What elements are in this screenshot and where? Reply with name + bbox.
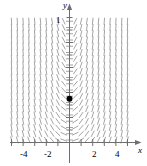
slope-segment bbox=[91, 131, 94, 137]
slope-segment bbox=[28, 87, 29, 94]
slope-segment bbox=[57, 37, 59, 44]
slope-segment bbox=[51, 93, 53, 100]
slope-segment bbox=[22, 124, 24, 131]
slope-segment bbox=[11, 93, 12, 100]
slope-segment bbox=[23, 49, 24, 56]
slope-segment bbox=[110, 55, 111, 62]
slope-segment bbox=[116, 68, 117, 75]
slope-segment bbox=[23, 112, 24, 119]
slope-segment bbox=[56, 118, 60, 124]
slope-segment bbox=[74, 18, 77, 24]
slope-segment bbox=[40, 74, 41, 81]
slope-segment bbox=[110, 30, 111, 37]
slope-segment bbox=[110, 99, 111, 106]
slope-segment bbox=[34, 80, 35, 87]
slope-segment bbox=[98, 80, 99, 87]
slope-segment bbox=[110, 62, 111, 69]
slope-segment bbox=[72, 126, 78, 129]
slope-segment bbox=[45, 99, 47, 106]
slope-segment bbox=[40, 55, 41, 62]
slope-segment bbox=[45, 112, 47, 119]
slope-segment bbox=[127, 112, 128, 119]
slope-segment bbox=[110, 87, 111, 94]
slope-segment bbox=[97, 124, 99, 131]
slope-segment bbox=[103, 124, 105, 131]
slope-segment bbox=[80, 24, 82, 31]
slope-segment bbox=[104, 49, 105, 56]
slope-segment bbox=[110, 80, 111, 87]
slope-segment bbox=[104, 99, 105, 106]
slope-segment bbox=[34, 68, 35, 75]
slope-segment bbox=[45, 93, 47, 100]
slope-segment bbox=[61, 119, 67, 123]
slope-segment bbox=[28, 130, 30, 137]
slope-segment bbox=[17, 74, 18, 81]
slope-segment bbox=[98, 112, 100, 119]
slope-segment bbox=[34, 37, 35, 44]
slope-segment bbox=[34, 124, 36, 131]
slope-segment bbox=[116, 55, 117, 62]
slope-segment bbox=[127, 80, 128, 87]
slope-segment bbox=[40, 99, 41, 106]
slope-segment bbox=[121, 62, 122, 69]
slope-segment bbox=[116, 49, 117, 56]
slope-segment bbox=[86, 99, 88, 106]
slope-segment bbox=[92, 18, 93, 25]
slope-segment bbox=[98, 55, 99, 62]
slope-segment bbox=[98, 68, 99, 75]
slope-segment bbox=[92, 37, 93, 44]
slope-segment bbox=[121, 130, 123, 137]
slope-segment bbox=[110, 37, 111, 44]
slope-segment bbox=[17, 80, 18, 87]
slope-segment bbox=[80, 49, 82, 56]
slope-segment bbox=[23, 80, 24, 87]
slope-segment bbox=[40, 112, 42, 119]
slope-segment bbox=[40, 43, 41, 50]
slope-segment bbox=[51, 105, 54, 112]
slope-segment bbox=[50, 124, 54, 130]
slope-segment bbox=[73, 100, 78, 105]
slope-segment bbox=[74, 37, 77, 43]
slope-segment bbox=[56, 112, 60, 118]
slope-segment bbox=[92, 49, 93, 56]
slope-segment bbox=[72, 119, 78, 123]
slope-segment bbox=[104, 24, 105, 31]
slope-segment bbox=[23, 43, 24, 50]
slope-segment bbox=[17, 130, 19, 137]
slope-segment bbox=[92, 99, 94, 106]
slope-segment bbox=[28, 105, 29, 112]
slope-segment bbox=[98, 43, 99, 50]
slope-segment bbox=[127, 99, 128, 106]
slope-segment bbox=[80, 68, 82, 75]
slope-segment bbox=[23, 55, 24, 62]
slope-segment bbox=[17, 105, 18, 112]
slope-segment bbox=[11, 130, 12, 137]
slope-segment bbox=[92, 68, 93, 75]
slope-segment bbox=[79, 131, 84, 136]
slope-segment bbox=[57, 49, 59, 56]
slope-segment bbox=[51, 62, 53, 69]
slope-segment bbox=[98, 37, 99, 44]
slope-segment bbox=[121, 118, 122, 125]
slope-segment bbox=[109, 124, 111, 131]
slope-segment bbox=[86, 37, 87, 44]
slope-segment bbox=[80, 18, 82, 25]
slope-segment bbox=[79, 118, 83, 124]
slope-segment bbox=[85, 124, 89, 130]
slope-segment bbox=[23, 62, 24, 69]
slope-segment bbox=[40, 30, 41, 37]
slope-segment bbox=[72, 132, 78, 135]
slope-segment bbox=[23, 105, 24, 112]
slope-segment bbox=[74, 31, 77, 37]
slope-segment bbox=[104, 62, 105, 69]
slope-segment bbox=[29, 74, 30, 81]
slope-segment bbox=[22, 118, 23, 125]
slope-segment bbox=[127, 118, 128, 125]
slope-segment bbox=[98, 30, 99, 37]
slope-segment bbox=[127, 74, 128, 81]
slope-segment bbox=[52, 18, 53, 25]
slope-segment bbox=[28, 124, 30, 131]
slope-segment bbox=[23, 87, 24, 94]
slope-segment bbox=[80, 43, 82, 50]
slope-segment bbox=[46, 62, 47, 69]
